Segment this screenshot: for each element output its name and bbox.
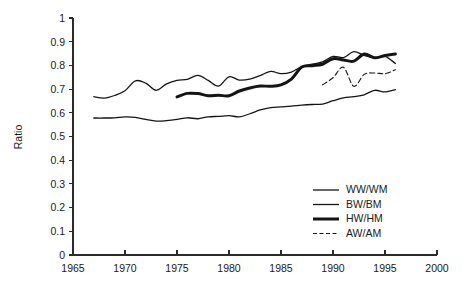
x-tick-group: 19651970197519801985199019952000	[61, 250, 449, 274]
data-series-group	[94, 52, 396, 122]
series-line-bw-bm	[94, 52, 396, 99]
x-tick-label: 1980	[217, 262, 241, 274]
y-tick-label: 0	[59, 249, 65, 261]
x-tick-label: 1985	[269, 262, 293, 274]
x-tick-label: 1995	[373, 262, 397, 274]
y-tick-group: 00.10.20.30.40.50.60.70.80.91	[50, 12, 73, 261]
x-tick-label: 1965	[61, 262, 85, 274]
y-tick-label: 0.5	[50, 130, 65, 142]
legend-label-aw-am: AW/AM	[346, 227, 381, 239]
y-tick-label: 0.1	[50, 225, 65, 237]
y-tick-label: 1	[59, 12, 65, 24]
legend-label-ww-wm: WW/WM	[346, 183, 387, 195]
x-tick-label: 2000	[425, 262, 449, 274]
y-axis-title: Ratio	[12, 125, 24, 150]
legend-label-bw-bm: BW/BM	[346, 198, 382, 210]
line-chart-svg: 00.10.20.30.40.50.60.70.80.91 1965197019…	[0, 0, 466, 295]
series-line-aw-am	[323, 67, 396, 86]
y-tick-label: 0.2	[50, 201, 65, 213]
legend-label-hw-hm: HW/HM	[346, 212, 383, 224]
x-tick-label: 1970	[113, 262, 137, 274]
y-tick-label: 0.3	[50, 178, 65, 190]
x-axis-group: 19651970197519801985199019952000	[61, 250, 449, 274]
y-tick-label: 0.8	[50, 59, 65, 71]
y-tick-label: 0.6	[50, 107, 65, 119]
chart-figure: 00.10.20.30.40.50.60.70.80.91 1965197019…	[0, 0, 466, 295]
y-tick-label: 0.7	[50, 83, 65, 95]
x-tick-label: 1990	[321, 262, 345, 274]
series-line-ww-wm	[94, 90, 396, 122]
x-tick-label: 1975	[165, 262, 189, 274]
y-axis-group: 00.10.20.30.40.50.60.70.80.91	[50, 12, 73, 261]
y-tick-label: 0.4	[50, 154, 65, 166]
chart-legend: WW/WMBW/BMHW/HMAW/AM	[313, 183, 387, 239]
y-tick-label: 0.9	[50, 36, 65, 48]
